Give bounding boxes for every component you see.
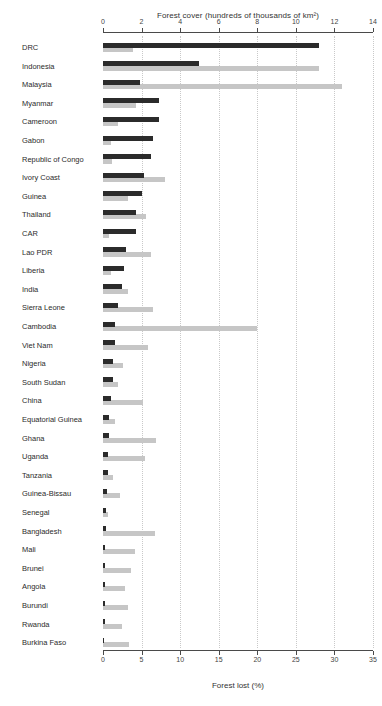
top-axis-tick-label: 10 xyxy=(284,18,308,25)
bottom-axis-tick-label: 20 xyxy=(245,656,269,663)
row-label-car: CAR xyxy=(22,229,38,238)
bar-forest-cover xyxy=(103,229,136,234)
bottom-axis-tick xyxy=(219,651,220,655)
gridline-vertical xyxy=(296,36,298,648)
row-label-drc: DRC xyxy=(22,43,38,52)
row-label-burundi: Burundi xyxy=(22,601,48,610)
row-label-senegal: Senegal xyxy=(22,508,50,517)
gridline-vertical xyxy=(142,36,144,648)
bar-forest-cover xyxy=(103,284,122,289)
gridline-vertical xyxy=(180,36,182,648)
bar-forest-lost xyxy=(103,159,112,164)
bar-forest-lost xyxy=(103,121,118,126)
gridline-vertical xyxy=(219,36,221,648)
bar-forest-cover xyxy=(103,210,136,215)
top-axis-tick xyxy=(257,28,258,32)
row-label-malaysia: Malaysia xyxy=(22,80,52,89)
row-label-indonesia: Indonesia xyxy=(22,62,55,71)
bar-forest-lost xyxy=(103,84,342,89)
row-label-equatorial-guinea: Equatorial Guinea xyxy=(22,415,82,424)
bar-forest-cover xyxy=(103,396,111,401)
bar-forest-lost xyxy=(103,289,128,294)
bar-forest-lost xyxy=(103,345,148,350)
bar-forest-lost xyxy=(103,307,153,312)
gridline-vertical xyxy=(373,36,375,648)
bottom-axis-tick xyxy=(257,651,258,655)
bar-forest-lost xyxy=(103,66,319,71)
bar-forest-cover xyxy=(103,433,109,438)
bar-forest-cover xyxy=(103,117,159,122)
bar-forest-cover xyxy=(103,266,124,271)
gridline-vertical xyxy=(334,36,336,648)
row-label-sierra-leone: Sierra Leone xyxy=(22,303,65,312)
bar-forest-cover xyxy=(103,61,199,66)
row-label-viet-nam: Viet Nam xyxy=(22,341,53,350)
bar-forest-lost xyxy=(103,624,122,629)
bar-forest-lost xyxy=(103,438,156,443)
row-label-ghana: Ghana xyxy=(22,434,45,443)
bar-forest-lost xyxy=(103,605,128,610)
bar-forest-cover xyxy=(103,508,106,513)
top-axis-line xyxy=(103,32,373,33)
bar-forest-cover xyxy=(103,563,105,568)
bar-forest-lost xyxy=(103,233,109,238)
bar-forest-lost xyxy=(103,475,113,480)
row-label-brunei: Brunei xyxy=(22,564,44,573)
top-axis-tick-label: 14 xyxy=(361,18,382,25)
row-label-india: India xyxy=(22,285,38,294)
bar-forest-lost xyxy=(103,214,146,219)
top-axis-tick xyxy=(180,28,181,32)
bar-forest-cover xyxy=(103,452,108,457)
row-label-mali: Mali xyxy=(22,545,36,554)
bar-forest-cover xyxy=(103,154,151,159)
bar-forest-lost xyxy=(103,531,155,536)
bottom-axis-tick xyxy=(103,651,104,655)
bar-forest-cover xyxy=(103,377,113,382)
bar-forest-cover xyxy=(103,526,106,531)
bar-forest-cover xyxy=(103,98,159,103)
bar-forest-lost xyxy=(103,363,123,368)
bottom-axis-tick-label: 10 xyxy=(168,656,192,663)
top-axis-tick xyxy=(103,28,104,32)
row-label-bangladesh: Bangladesh xyxy=(22,527,62,536)
bar-forest-lost xyxy=(103,252,151,257)
bar-forest-cover xyxy=(103,80,140,85)
row-label-angola: Angola xyxy=(22,582,45,591)
row-label-china: China xyxy=(22,396,42,405)
bar-forest-cover xyxy=(103,247,126,252)
row-label-liberia: Liberia xyxy=(22,266,45,275)
bar-forest-cover xyxy=(103,470,108,475)
bar-forest-cover xyxy=(103,303,118,308)
top-axis-tick xyxy=(142,28,143,32)
bottom-axis-line xyxy=(103,650,373,651)
top-axis-tick-label: 0 xyxy=(91,18,115,25)
bar-forest-cover xyxy=(103,489,107,494)
bar-forest-cover xyxy=(103,136,153,141)
row-label-cambodia: Cambodia xyxy=(22,322,56,331)
top-axis-tick xyxy=(334,28,335,32)
top-axis-tick-label: 4 xyxy=(168,18,192,25)
row-label-rwanda: Rwanda xyxy=(22,620,50,629)
bar-forest-lost xyxy=(103,196,128,201)
row-label-uganda: Uganda xyxy=(22,452,48,461)
top-axis-tick-label: 6 xyxy=(207,18,231,25)
top-axis-tick xyxy=(219,28,220,32)
bar-forest-lost xyxy=(103,400,143,405)
bottom-axis-title: Forest lost (%) xyxy=(103,681,373,690)
row-label-south-sudan: South Sudan xyxy=(22,378,65,387)
bar-forest-lost xyxy=(103,512,108,517)
bottom-axis-tick-label: 0 xyxy=(91,656,115,663)
bar-forest-cover xyxy=(103,415,109,420)
row-label-myanmar: Myanmar xyxy=(22,99,53,108)
gridline-vertical xyxy=(257,36,259,648)
row-label-guinea-bissau: Guinea-Bissau xyxy=(22,489,71,498)
bar-forest-lost xyxy=(103,177,165,182)
bar-forest-lost xyxy=(103,456,145,461)
row-label-burkina-faso: Burkina Faso xyxy=(22,638,66,647)
bar-forest-lost xyxy=(103,270,111,275)
bar-forest-cover xyxy=(103,638,104,643)
row-label-republic-of-congo: Republic of Congo xyxy=(22,155,84,164)
bar-forest-lost xyxy=(103,47,133,52)
top-axis-tick xyxy=(296,28,297,32)
bar-forest-lost xyxy=(103,549,135,554)
